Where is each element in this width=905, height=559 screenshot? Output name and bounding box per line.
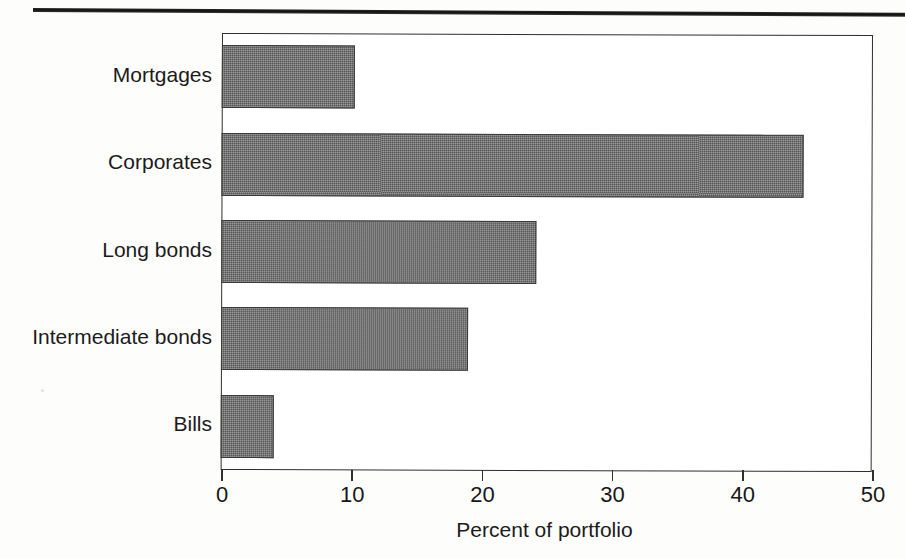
bar-intermediate-bonds: [221, 307, 469, 371]
x-tick-40: [742, 470, 744, 481]
bars-layer: [221, 33, 873, 472]
bar-corporates: [221, 133, 803, 198]
category-label-mortgages: Mortgages: [0, 63, 212, 87]
x-tick-20: [482, 470, 484, 481]
x-tick-label-0: 0: [216, 482, 228, 508]
category-label-bills: Bills: [0, 412, 212, 436]
bar-bills: [221, 395, 275, 458]
x-tick-label-10: 10: [340, 482, 364, 508]
x-tick-label-50: 50: [861, 482, 885, 508]
bar-mortgages: [222, 45, 355, 108]
chart-page: MortgagesCorporatesLong bondsIntermediat…: [0, 0, 905, 559]
bar-long-bonds: [221, 220, 536, 284]
x-tick-50: [872, 470, 874, 481]
x-axis-title: Percent of portfolio: [0, 518, 905, 542]
x-tick-label-30: 30: [600, 482, 624, 508]
x-axis-title-text: Percent of portfolio: [456, 518, 632, 541]
x-tick-10: [351, 470, 353, 481]
x-tick-label-20: 20: [470, 482, 494, 508]
x-tick-0: [221, 470, 223, 481]
page-header-rule: [33, 8, 905, 17]
x-tick-label-40: 40: [731, 482, 755, 508]
category-label-intermediate-bonds: Intermediate bonds: [0, 325, 212, 349]
x-tick-30: [612, 470, 614, 481]
category-label-corporates: Corporates: [0, 150, 212, 174]
scan-speck: [41, 389, 44, 392]
category-label-long-bonds: Long bonds: [0, 238, 212, 262]
